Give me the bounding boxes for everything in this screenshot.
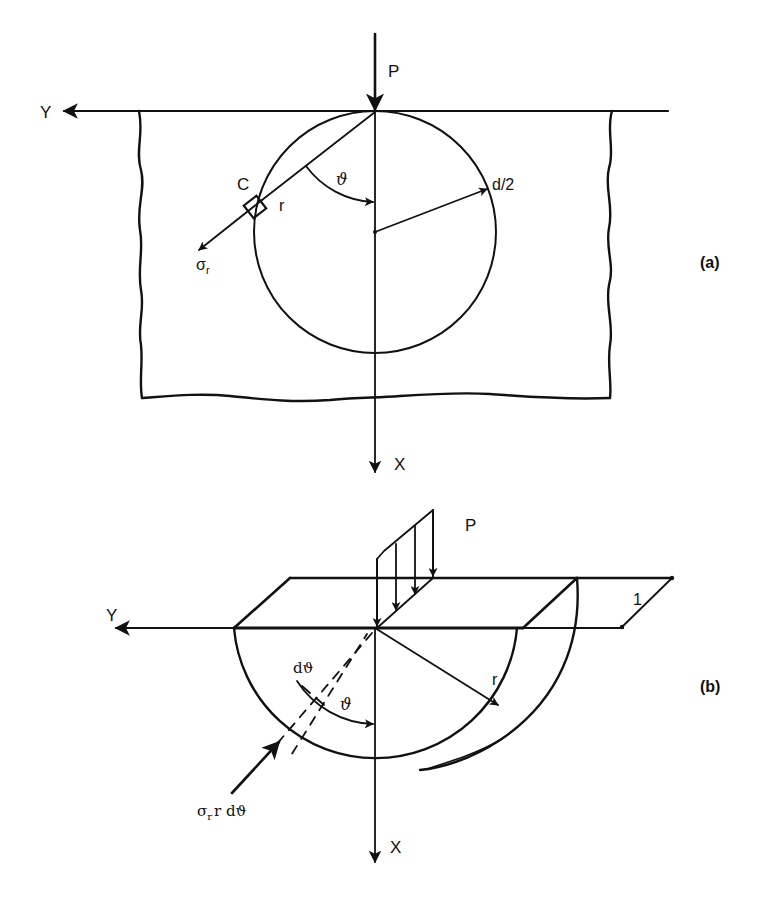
dashed-radial-2 bbox=[290, 634, 367, 757]
caption-b: (b) bbox=[700, 678, 720, 695]
half-diameter-label: d/2 bbox=[492, 176, 514, 193]
dtheta-label: dϑ bbox=[293, 659, 314, 677]
slab-origin-diagonal bbox=[377, 578, 433, 628]
half-diameter-line bbox=[375, 189, 487, 232]
thickness-end-dot-1 bbox=[670, 576, 674, 580]
caption-a: (a) bbox=[700, 254, 720, 271]
angle-label-a: ϑ bbox=[336, 170, 347, 189]
load-label-a: P bbox=[388, 62, 399, 81]
back-semicircle-join bbox=[430, 740, 500, 768]
panel-a bbox=[64, 34, 668, 472]
body-left-edge bbox=[139, 111, 143, 398]
body-bottom-edge bbox=[142, 393, 610, 401]
y-axis-label-a: Y bbox=[40, 103, 51, 122]
stress-subscript: r bbox=[206, 264, 210, 276]
stress-arrow-sigma-r bbox=[199, 200, 262, 250]
x-axis-label-b: X bbox=[390, 838, 401, 857]
force-arrow-b bbox=[232, 742, 279, 793]
load-profile-b bbox=[377, 510, 433, 628]
load-label-b: P bbox=[465, 516, 476, 535]
stress-symbol: σ bbox=[196, 256, 206, 273]
unit-thickness-diagonal bbox=[622, 578, 672, 627]
radius-label-b: r bbox=[492, 671, 498, 688]
angle-label-b: ϑ bbox=[340, 695, 351, 714]
force-label-b: σrr dϑ bbox=[197, 802, 247, 822]
angle-arc-b bbox=[297, 681, 373, 724]
element-label-c: C bbox=[237, 175, 249, 194]
radius-line-b bbox=[375, 628, 498, 705]
figure-canvas: P Y X C r ϑ d/2 σr (a) bbox=[0, 0, 768, 901]
y-axis-label-b: Y bbox=[106, 606, 117, 625]
unit-thickness-label: 1 bbox=[633, 591, 642, 608]
stress-label-a: σr bbox=[196, 256, 210, 276]
force-sigma: σ bbox=[197, 802, 207, 820]
force-tail: r dϑ bbox=[214, 802, 247, 820]
slab-right-diagonal bbox=[523, 578, 577, 628]
slab-left-diagonal bbox=[234, 578, 290, 628]
radius-label-a: r bbox=[279, 197, 285, 214]
body-right-edge bbox=[608, 111, 612, 398]
x-axis-label-a: X bbox=[394, 455, 405, 474]
force-subscript: r bbox=[207, 811, 212, 822]
